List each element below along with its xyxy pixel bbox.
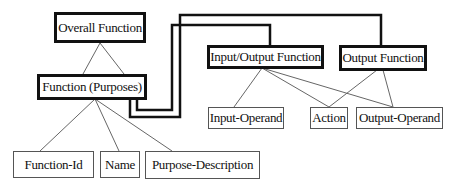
node-label: Name bbox=[105, 157, 135, 173]
node-label: Input/Output Function bbox=[210, 49, 320, 65]
node-label: Input-Operand bbox=[210, 110, 283, 126]
node-input-output-function: Input/Output Function bbox=[207, 45, 324, 69]
node-label: Overall Function bbox=[58, 20, 142, 36]
node-label: Output-Operand bbox=[359, 110, 440, 126]
node-label: Output Function bbox=[342, 50, 423, 66]
node-label: Function (Purposes) bbox=[42, 79, 141, 95]
node-label: Action bbox=[312, 110, 346, 126]
node-input-operand: Input-Operand bbox=[208, 107, 284, 129]
node-action: Action bbox=[310, 107, 348, 129]
node-function-id: Function-Id bbox=[13, 151, 94, 178]
node-output-operand: Output-Operand bbox=[356, 107, 443, 129]
node-output-function: Output Function bbox=[339, 45, 427, 71]
node-name: Name bbox=[100, 151, 140, 178]
node-purpose-description: Purpose-Description bbox=[145, 151, 260, 179]
node-overall-function: Overall Function bbox=[54, 12, 146, 43]
node-label: Function-Id bbox=[24, 157, 82, 173]
node-label: Purpose-Description bbox=[152, 157, 253, 173]
node-function-purposes: Function (Purposes) bbox=[37, 74, 147, 100]
